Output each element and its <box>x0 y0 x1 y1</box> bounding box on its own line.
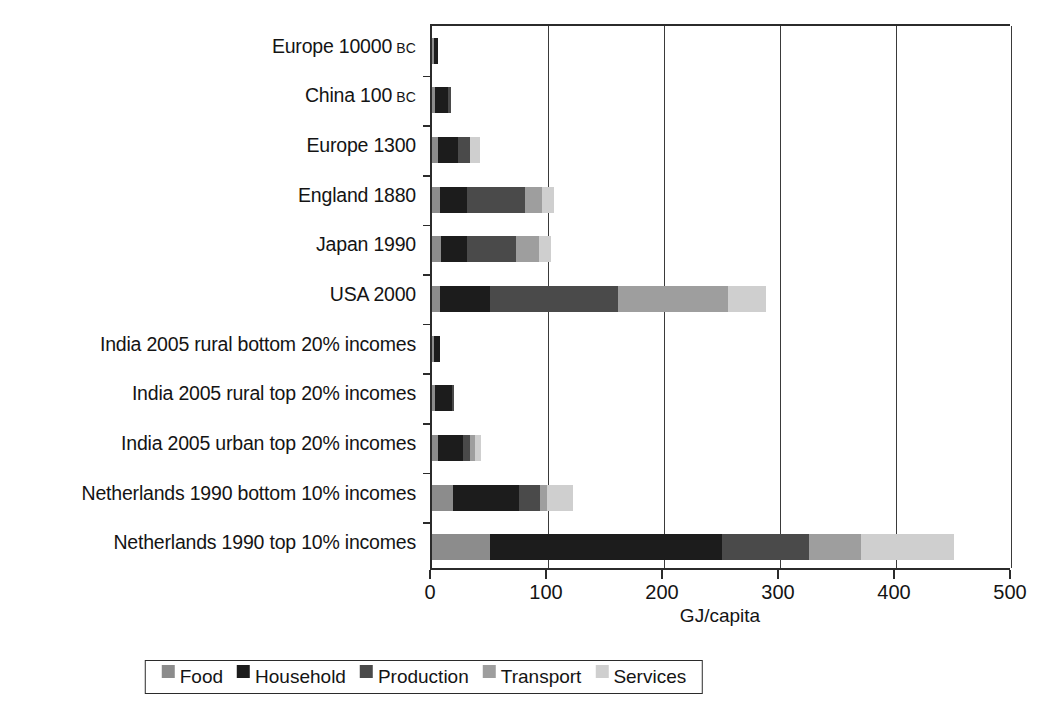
x-axis-tick-label: 400 <box>877 581 910 604</box>
bar-row[interactable] <box>432 236 551 262</box>
bar-segment-services[interactable] <box>542 187 554 213</box>
bar-segment-services[interactable] <box>547 485 574 511</box>
y-axis-tick <box>423 522 432 524</box>
legend-swatch-icon <box>162 665 175 678</box>
x-axis-tick <box>893 570 895 579</box>
category-label: India 2005 rural bottom 20% incomes <box>100 335 416 355</box>
category-label-text: England 1880 <box>298 184 416 206</box>
gridline-300 <box>780 26 781 568</box>
category-label: England 1880 <box>298 186 416 206</box>
x-axis-tick <box>429 570 431 579</box>
legend-swatch-icon <box>483 665 496 678</box>
bar-segment-household[interactable] <box>453 485 519 511</box>
bar-segment-production[interactable] <box>458 137 471 163</box>
bar-segment-household[interactable] <box>441 236 467 262</box>
y-axis-tick <box>423 76 432 78</box>
bar-segment-food[interactable] <box>432 236 441 262</box>
bar-segment-services[interactable] <box>475 435 481 461</box>
bar-segment-production[interactable] <box>448 87 450 113</box>
bar-segment-transport[interactable] <box>516 236 539 262</box>
category-label: China 100 BC <box>305 86 416 106</box>
legend-label: Production <box>378 666 469 688</box>
bar-segment-production[interactable] <box>452 385 454 411</box>
bar-segment-services[interactable] <box>728 286 766 312</box>
bar-segment-household[interactable] <box>438 137 458 163</box>
bar-segment-food[interactable] <box>432 187 440 213</box>
bar-row[interactable] <box>432 87 451 113</box>
bar-segment-household[interactable] <box>435 385 451 411</box>
category-label-column: Europe 10000 BCChina 100 BCEurope 1300En… <box>0 38 424 560</box>
x-axis-title: GJ/capita <box>430 605 1010 627</box>
bar-segment-household[interactable] <box>434 336 440 362</box>
bar-row[interactable] <box>432 435 481 461</box>
bar-row[interactable] <box>432 336 440 362</box>
bar-segment-production[interactable] <box>463 435 470 461</box>
bar-segment-household[interactable] <box>440 286 490 312</box>
bar-segment-transport[interactable] <box>540 485 547 511</box>
bar-segment-household[interactable] <box>440 187 467 213</box>
bar-segment-services[interactable] <box>861 534 954 560</box>
bar-row[interactable] <box>432 38 438 64</box>
category-label: Europe 1300 <box>307 136 416 156</box>
plot-area <box>430 24 1010 570</box>
category-label-text: Japan 1990 <box>316 233 416 255</box>
bar-segment-transport[interactable] <box>525 187 542 213</box>
category-label: Europe 10000 BC <box>272 37 416 57</box>
legend-label: Household <box>255 666 346 688</box>
bar-segment-household[interactable] <box>438 435 464 461</box>
bar-segment-food[interactable] <box>432 485 453 511</box>
legend-swatch-icon <box>237 665 250 678</box>
category-label: Netherlands 1990 bottom 10% incomes <box>82 484 416 504</box>
category-label: USA 2000 <box>330 285 416 305</box>
bar-segment-services[interactable] <box>539 236 552 262</box>
bar-row[interactable] <box>432 385 454 411</box>
legend-item[interactable]: Transport <box>483 665 582 688</box>
x-axis-tick <box>777 570 779 579</box>
bar-segment-production[interactable] <box>490 286 618 312</box>
bar-row[interactable] <box>432 286 766 312</box>
category-label-text: India 2005 rural top 20% incomes <box>132 382 416 404</box>
x-axis-tick-label: 0 <box>424 581 435 604</box>
bar-segment-transport[interactable] <box>618 286 728 312</box>
category-label: Netherlands 1990 top 10% incomes <box>113 533 416 553</box>
bar-segment-production[interactable] <box>467 187 525 213</box>
bar-segment-transport[interactable] <box>809 534 861 560</box>
y-axis-tick <box>423 373 432 375</box>
category-label: India 2005 urban top 20% incomes <box>121 434 416 454</box>
category-label: India 2005 rural top 20% incomes <box>132 384 416 404</box>
category-label-era: BC <box>392 89 416 105</box>
bar-row[interactable] <box>432 485 573 511</box>
category-label-text: India 2005 rural bottom 20% incomes <box>100 333 416 355</box>
bar-segment-food[interactable] <box>432 286 440 312</box>
legend-item[interactable]: Household <box>237 665 346 688</box>
category-label-text: Netherlands 1990 bottom 10% incomes <box>82 482 416 504</box>
y-axis-tick <box>423 225 432 227</box>
x-axis-tick <box>661 570 663 579</box>
legend-label: Transport <box>501 666 582 688</box>
bar-segment-production[interactable] <box>467 236 516 262</box>
bar-row[interactable] <box>432 187 554 213</box>
legend-item[interactable]: Services <box>595 665 686 688</box>
category-label-era: BC <box>392 40 416 56</box>
y-axis-tick <box>423 423 432 425</box>
legend-swatch-icon <box>595 665 608 678</box>
bar-segment-household[interactable] <box>435 87 448 113</box>
gridline-400 <box>896 26 897 568</box>
bar-segment-production[interactable] <box>722 534 809 560</box>
legend-item[interactable]: Food <box>162 665 223 688</box>
bar-segment-household[interactable] <box>490 534 722 560</box>
x-axis-tick <box>545 570 547 579</box>
x-axis-tick-label: 500 <box>993 581 1026 604</box>
x-axis-tick-label: 200 <box>645 581 678 604</box>
legend-swatch-icon <box>360 665 373 678</box>
bar-row[interactable] <box>432 137 480 163</box>
bar-segment-food[interactable] <box>432 534 490 560</box>
legend-item[interactable]: Production <box>360 665 469 688</box>
category-label-text: India 2005 urban top 20% incomes <box>121 432 416 454</box>
y-axis-tick <box>423 324 432 326</box>
bar-segment-household[interactable] <box>434 38 439 64</box>
bar-row[interactable] <box>432 534 954 560</box>
stacked-bar-chart: Europe 10000 BCChina 100 BCEurope 1300En… <box>0 0 1058 715</box>
bar-segment-production[interactable] <box>519 485 540 511</box>
bar-segment-services[interactable] <box>470 137 479 163</box>
